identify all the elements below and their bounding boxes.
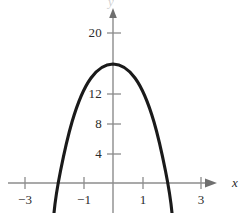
graph-figure: y x 20 12 8 4 −3 −1 1 3 (0, 0, 252, 213)
y-axis-label: y (108, 0, 114, 8)
y-axis (109, 8, 117, 213)
x-tick-label-1: 1 (125, 193, 161, 206)
y-axis-ticks (107, 33, 121, 154)
x-tick-label-minus-1: −1 (66, 193, 102, 206)
y-tick-label-20: 20 (72, 26, 102, 39)
x-tick-label-3: 3 (183, 193, 219, 206)
y-tick-label-8: 8 (72, 117, 102, 130)
y-tick-label-12: 12 (72, 87, 102, 100)
plot-canvas (0, 0, 252, 213)
x-tick-label-minus-3: −3 (7, 193, 43, 206)
y-tick-label-4: 4 (72, 147, 102, 160)
x-axis-label: x (232, 176, 238, 189)
